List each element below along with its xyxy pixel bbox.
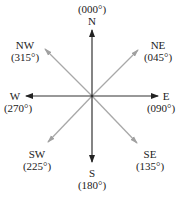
bearing-southwest: (225°) [23,160,51,172]
arrow-sw [48,96,92,142]
bearing-south: (180°) [78,179,106,191]
label-northwest: NW (315°) [11,39,39,63]
bearing-north: (000°) [78,3,106,15]
bearing-northeast: (045°) [144,51,172,63]
label-east: E (090°) [157,90,175,114]
label-northeast: NE (045°) [144,39,172,63]
direction-south: S [78,167,106,179]
direction-east: E [157,90,175,102]
direction-southwest: SW [23,148,51,160]
label-west: W (270°) [4,90,32,114]
arrow-nw [45,49,92,96]
label-south: S (180°) [78,167,106,191]
direction-north: N [78,15,106,27]
bearing-east: (090°) [147,102,175,114]
label-north: (000°) N [78,3,106,27]
label-southeast: SE (135°) [136,148,164,172]
direction-southeast: SE [136,148,164,160]
label-southwest: SW (225°) [23,148,51,172]
direction-northwest: NW [11,39,39,51]
center-point [91,95,94,98]
bearing-west: (270°) [4,102,32,114]
direction-west: W [0,90,32,102]
direction-northeast: NE [144,39,172,51]
bearing-northwest: (315°) [11,51,39,63]
arrow-se [92,96,137,143]
arrow-ne [92,50,138,96]
bearing-southeast: (135°) [136,160,164,172]
compass-diagram: (000°) N NE (045°) E (090°) SE (135°) S … [0,0,185,198]
